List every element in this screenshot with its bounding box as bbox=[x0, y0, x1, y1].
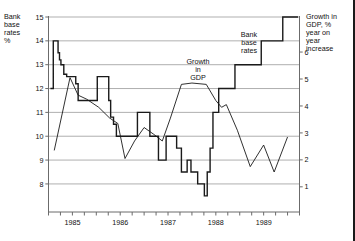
left-axis-tick-label: 9 bbox=[40, 156, 44, 165]
right-axis-tick-label: 5 bbox=[305, 75, 309, 84]
left-axis-tick-label: 10 bbox=[36, 132, 44, 141]
x-axis: 19851986198719881989 bbox=[49, 212, 300, 227]
right-axis: 123456 bbox=[300, 16, 309, 212]
right-axis-tick-label: 4 bbox=[305, 102, 309, 111]
x-axis-tick-label: 1987 bbox=[160, 218, 176, 227]
right-axis-tick-label: 2 bbox=[305, 155, 309, 164]
left-axis-tick-label: 14 bbox=[36, 36, 44, 45]
x-axis-tick-label: 1988 bbox=[208, 218, 224, 227]
x-axis-tick-label: 1985 bbox=[64, 218, 80, 227]
chart-figure: Bank base rates % Growth in GDP, % year … bbox=[0, 0, 355, 241]
data-series-group bbox=[50, 17, 298, 196]
series-line-growth-in-gdp bbox=[54, 78, 287, 172]
left-axis-tick-label: 13 bbox=[36, 60, 44, 69]
left-axis-tick-label: 11 bbox=[36, 108, 43, 117]
left-axis-tick-label: 12 bbox=[36, 84, 44, 93]
x-axis-tick-label: 1989 bbox=[256, 218, 272, 227]
left-axis-tick-label: 15 bbox=[36, 13, 44, 22]
left-axis: 89101112131415 bbox=[36, 13, 49, 212]
chart-plot-area: 89101112131415 123456 198519861987198819… bbox=[0, 0, 355, 241]
x-axis-tick-label: 1986 bbox=[112, 218, 128, 227]
right-axis-tick-label: 3 bbox=[305, 129, 309, 138]
right-axis-tick-label: 6 bbox=[305, 48, 309, 57]
left-axis-tick-label: 8 bbox=[40, 180, 44, 189]
right-axis-tick-label: 1 bbox=[305, 182, 309, 191]
